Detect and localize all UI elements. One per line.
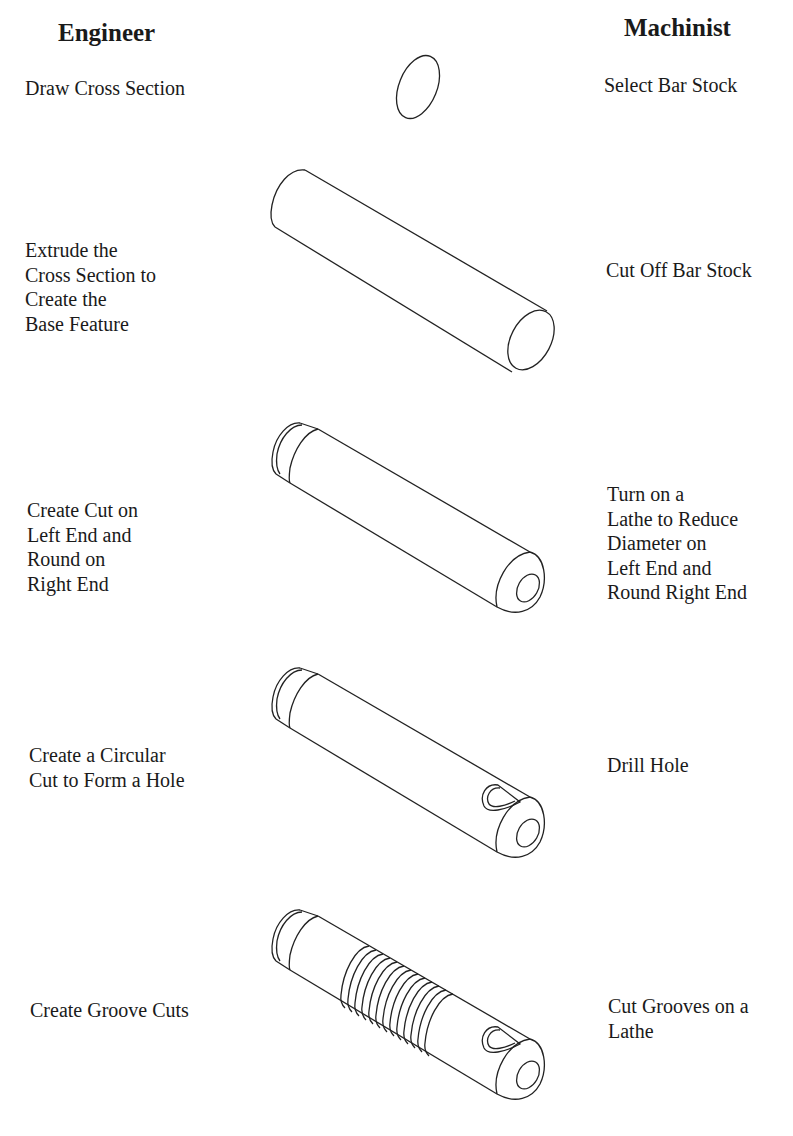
grooved-cylinder-icon (272, 910, 544, 1099)
process-illustrations (0, 0, 793, 1136)
cross-section-ellipse-icon (388, 49, 448, 124)
drilled-cylinder-icon (272, 668, 544, 857)
plain-cylinder-icon (271, 170, 564, 378)
stepped-cylinder-icon (272, 423, 544, 612)
groove-rings (341, 946, 453, 1056)
